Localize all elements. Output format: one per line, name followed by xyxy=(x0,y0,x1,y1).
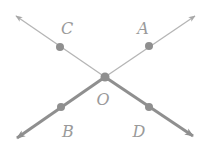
label-c: C xyxy=(61,19,73,38)
point-d xyxy=(145,103,153,111)
label-a: A xyxy=(135,19,149,38)
point-b xyxy=(57,103,65,111)
point-o xyxy=(101,73,110,82)
label-o: O xyxy=(96,90,109,109)
point-a xyxy=(145,42,153,50)
point-c xyxy=(56,43,64,51)
label-d: D xyxy=(132,122,146,141)
intersecting-lines-diagram: C A B D O xyxy=(0,0,211,153)
label-b: B xyxy=(61,122,74,141)
